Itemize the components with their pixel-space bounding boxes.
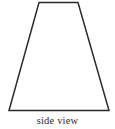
side-view-diagram bbox=[0, 0, 115, 115]
trapezoid-shape bbox=[9, 3, 109, 111]
figure-caption: side view bbox=[0, 114, 115, 127]
figure-container: side view bbox=[0, 0, 115, 129]
